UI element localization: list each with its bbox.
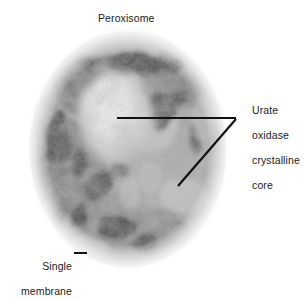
core-label-line-3: crystalline	[252, 154, 300, 166]
membrane-label-line-1: Single	[42, 260, 72, 272]
core-label-line-2: oxidase	[252, 129, 289, 141]
label-single-membrane: Single membrane	[12, 247, 72, 299]
core-label-line-1: Urate	[252, 104, 278, 116]
label-peroxisome: Peroxisome	[98, 12, 154, 25]
electron-micrograph-image	[28, 29, 232, 271]
membrane-label-line-2: membrane	[12, 285, 72, 298]
membrane-leader-dash	[74, 252, 87, 254]
membrane-rim	[28, 29, 230, 271]
label-urate-oxidase-crystalline-core: Urate oxidase crystalline core	[240, 91, 300, 204]
core-label-line-4: core	[252, 179, 273, 191]
